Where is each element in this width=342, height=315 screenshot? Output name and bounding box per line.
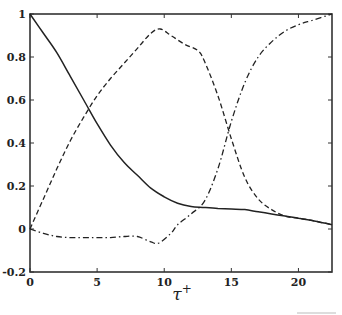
x-tick-label: 5 (93, 276, 101, 289)
x-axis-label: τ+ (172, 282, 191, 304)
y-tick-label: 0.2 (7, 180, 26, 193)
x-tick-label: 20 (291, 276, 307, 289)
data-series (30, 14, 332, 244)
series-solid (30, 14, 332, 225)
line-chart: 05101520 -0.200.20.40.60.81 τ+ (0, 0, 342, 315)
y-tick-label: 0.4 (7, 137, 26, 150)
series-dash-dot (30, 14, 332, 244)
x-tick-labels: 05101520 (26, 276, 306, 289)
y-tick-label: -0.2 (2, 266, 26, 279)
y-tick-label: 0 (18, 223, 26, 236)
x-tick-label: 10 (157, 276, 173, 289)
plot-frame (30, 14, 332, 272)
y-tick-labels: -0.200.20.40.60.81 (2, 8, 26, 279)
plot-border (30, 14, 332, 272)
y-tick-label: 0.6 (7, 94, 26, 107)
axis-ticks (30, 14, 332, 272)
y-tick-label: 1 (18, 8, 26, 21)
y-tick-label: 0.8 (7, 51, 26, 64)
series-dashed (30, 29, 332, 229)
x-tick-label: 0 (26, 276, 34, 289)
x-tick-label: 15 (224, 276, 239, 289)
